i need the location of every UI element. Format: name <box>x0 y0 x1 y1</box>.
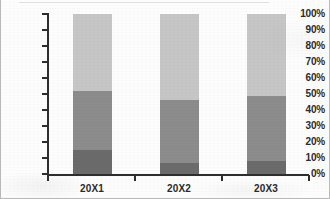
y-axis-tick-mark <box>42 157 48 159</box>
bar-segment-20X3-series-3[interactable] <box>247 14 286 96</box>
y-axis-tick-mark <box>42 45 48 47</box>
y-axis-tick-label: 80% <box>285 40 330 52</box>
y-axis-tick-label: 10% <box>285 152 330 164</box>
y-axis-tick-label: 60% <box>285 72 330 84</box>
bar-segment-20X1-series-1[interactable] <box>73 150 112 174</box>
bar-segment-20X2-series-3[interactable] <box>160 14 199 100</box>
bar-segment-20X3-series-2[interactable] <box>247 96 286 162</box>
x-axis-label-20X1: 20X1 <box>47 183 137 194</box>
y-axis-tick-mark <box>42 13 48 15</box>
y-axis-tick-mark <box>42 61 48 63</box>
bar-20X1[interactable] <box>73 14 112 174</box>
bar-20X3[interactable] <box>247 14 286 174</box>
y-axis-tick-label: 30% <box>285 120 330 132</box>
y-axis-tick-label: 90% <box>285 24 330 36</box>
plot-area: 100%90%80%70%60%50%40%30%20%10%0% 20X120… <box>1 0 330 199</box>
y-axis-tick-text: 20% <box>306 136 330 148</box>
y-axis-tick-mark <box>42 77 48 79</box>
y-axis-tick-text: 40% <box>306 104 330 116</box>
x-axis-tick-mark <box>47 175 49 181</box>
bar-segment-20X2-series-2[interactable] <box>160 100 199 162</box>
y-axis-tick-text: 80% <box>306 40 330 52</box>
y-axis-tick-text: 70% <box>306 56 330 68</box>
y-axis-tick-label: 20% <box>285 136 330 148</box>
y-axis-tick-text: 10% <box>306 152 330 164</box>
y-axis-tick-label: 40% <box>285 104 330 116</box>
x-axis-tick-mark <box>221 175 223 181</box>
bar-segment-20X3-series-1[interactable] <box>247 161 286 174</box>
x-axis-tick-mark <box>134 175 136 181</box>
y-axis-tick-mark <box>42 141 48 143</box>
y-axis-tick-label: 100% <box>285 8 330 20</box>
y-axis-tick-text: 50% <box>306 88 330 100</box>
y-axis-tick-mark <box>42 125 48 127</box>
y-axis-tick-mark <box>42 109 48 111</box>
y-axis-tick-label: 50% <box>285 88 330 100</box>
x-axis-label-20X3: 20X3 <box>221 183 311 194</box>
bar-20X2[interactable] <box>160 14 199 174</box>
y-axis-tick-mark <box>42 29 48 31</box>
y-axis-tick-label: 70% <box>285 56 330 68</box>
y-axis-tick-text: 60% <box>306 72 330 84</box>
y-axis-tick-text: 90% <box>306 24 330 36</box>
x-axis-label-20X2: 20X2 <box>134 183 224 194</box>
y-axis-tick-text: 30% <box>306 120 330 132</box>
bar-segment-20X2-series-1[interactable] <box>160 163 199 174</box>
x-axis-line <box>47 174 309 176</box>
chart-frame: 100%90%80%70%60%50%40%30%20%10%0% 20X120… <box>0 0 330 199</box>
bar-segment-20X1-series-2[interactable] <box>73 91 112 150</box>
x-axis-tick-mark <box>308 175 310 181</box>
y-axis-tick-text: 100% <box>300 8 330 20</box>
y-axis-tick-text: 0% <box>311 168 330 180</box>
y-axis-tick-mark <box>42 93 48 95</box>
bar-segment-20X1-series-3[interactable] <box>73 14 112 91</box>
